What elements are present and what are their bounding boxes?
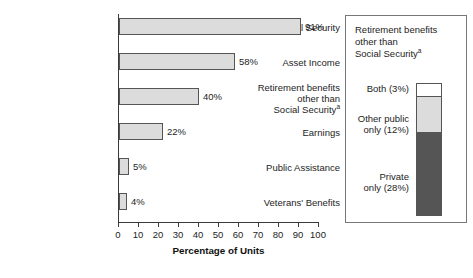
category-label-text: Asset Income (282, 57, 340, 68)
chart-page: Social Security Asset Income Retirement … (0, 0, 473, 278)
footnote-marker-a: a (418, 47, 422, 54)
horizontal-bar-chart: Social Security Asset Income Retirement … (0, 0, 340, 278)
stack-label-other-line-1: Other public (358, 113, 409, 124)
category-label-text: Veterans' Benefits (264, 197, 340, 208)
stack-segment-other-public-only (417, 96, 441, 133)
x-tick-label-30: 30 (173, 229, 184, 240)
x-tick-label-20: 20 (153, 229, 164, 240)
category-label-line-2: other than (297, 93, 340, 104)
stack-label-private-line-2: only (28%) (364, 182, 409, 193)
x-tick-mark-20 (158, 223, 159, 227)
x-tick-mark-30 (178, 223, 179, 227)
inset-panel-title: Retirement benefits other than Social Se… (355, 24, 463, 60)
x-tick-label-40: 40 (193, 229, 204, 240)
stack-label-private-only: Private only (28%) (347, 171, 409, 193)
category-label-public-assistance: Public Assistance (228, 162, 340, 173)
category-label-line-3: Social Security (274, 104, 337, 115)
bar-value-public-assistance: 5% (133, 161, 147, 172)
bar-public-assistance (119, 158, 129, 175)
x-tick-mark-40 (198, 223, 199, 227)
y-axis-line (118, 14, 119, 223)
stack-segment-both (417, 84, 441, 96)
x-tick-mark-10 (138, 223, 139, 227)
bar-value-asset-income: 58% (239, 56, 258, 67)
x-tick-mark-80 (278, 223, 279, 227)
bar-earnings (119, 123, 163, 140)
x-tick-label-100: 100 (310, 229, 326, 240)
footnote-marker-a: a (336, 103, 340, 110)
x-tick-mark-90 (298, 223, 299, 227)
bar-value-veterans-benefits: 4% (131, 196, 145, 207)
category-label-veterans-benefits: Veterans' Benefits (228, 197, 340, 208)
inset-title-line-3: Social Security (355, 48, 418, 59)
bar-asset-income (119, 53, 235, 70)
bar-retirement-benefits (119, 88, 199, 105)
category-label-text: Earnings (303, 127, 341, 138)
stack-segment-private-only (417, 133, 441, 215)
x-tick-label-10: 10 (133, 229, 144, 240)
stack-label-private-line-1: Private (379, 171, 409, 182)
x-tick-mark-70 (258, 223, 259, 227)
category-label-line-1: Retirement benefits (258, 82, 340, 93)
x-tick-label-0: 0 (115, 229, 120, 240)
category-label-earnings: Earnings (228, 127, 340, 138)
x-axis-title: Percentage of Units (118, 245, 319, 256)
x-tick-mark-50 (218, 223, 219, 227)
bar-value-earnings: 22% (167, 126, 186, 137)
x-tick-label-90: 90 (293, 229, 304, 240)
x-tick-mark-0 (118, 223, 119, 227)
bar-social-security (119, 18, 301, 35)
x-tick-mark-100 (318, 223, 319, 227)
stacked-bar (416, 83, 442, 216)
bar-value-social-security: 91% (305, 21, 324, 32)
x-tick-mark-60 (238, 223, 239, 227)
stack-label-both-text: Both (3%) (367, 83, 409, 94)
stack-label-other-line-2: only (12%) (364, 124, 409, 135)
stack-label-other-public-only: Other public only (12%) (347, 113, 409, 135)
bar-value-retirement-benefits: 40% (203, 91, 222, 102)
x-tick-label-50: 50 (213, 229, 224, 240)
x-tick-label-60: 60 (233, 229, 244, 240)
inset-title-line-1: Retirement benefits (355, 24, 437, 35)
category-label-text: Public Assistance (266, 162, 340, 173)
inset-panel-retirement-breakdown: Retirement benefits other than Social Se… (345, 15, 467, 223)
category-label-retirement-benefits: Retirement benefits other than Social Se… (228, 82, 340, 115)
stack-label-both: Both (3%) (347, 83, 409, 94)
x-tick-label-80: 80 (273, 229, 284, 240)
inset-title-line-2: other than (355, 36, 398, 47)
x-tick-label-70: 70 (253, 229, 264, 240)
bar-veterans-benefits (119, 193, 127, 210)
